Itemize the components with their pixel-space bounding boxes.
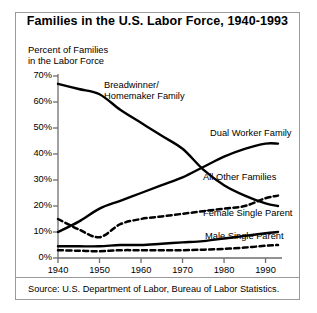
y-tick-label: 40% — [12, 148, 52, 158]
x-tick-label: 1990 — [244, 265, 288, 275]
y-tick-label: 50% — [12, 122, 52, 132]
series-label-female-single-parent: Female Single Parent — [203, 208, 292, 219]
series-label-male-single-parent: Male Single Parent — [205, 231, 284, 242]
series-label-breadwinner-homemaker-family: Breadwinner/ Homemaker Family — [104, 80, 185, 102]
y-tick-label: 30% — [12, 174, 52, 184]
series-line-0 — [58, 84, 278, 206]
x-tick-label: 1980 — [202, 265, 246, 275]
data-series — [58, 84, 278, 251]
y-tick-label: 20% — [12, 200, 52, 210]
y-tick-label: 0% — [12, 252, 52, 262]
series-label-dual-worker-family: Dual Worker Family — [210, 128, 291, 139]
x-tick-label: 1950 — [78, 265, 122, 275]
y-tick-label: 10% — [12, 226, 52, 236]
source-note: Source: U.S. Department of Labor, Bureau… — [28, 284, 279, 294]
y-tick-label: 70% — [12, 70, 52, 80]
source-divider — [16, 277, 299, 278]
x-tick-label: 1970 — [161, 265, 205, 275]
x-tick-label: 1940 — [36, 265, 80, 275]
y-tick-label: 60% — [12, 96, 52, 106]
chart-figure: Families in the U.S. Labor Force, 1940-1… — [0, 0, 317, 313]
series-label-all-other-families: All Other Families — [203, 172, 276, 183]
x-tick-label: 1960 — [119, 265, 163, 275]
